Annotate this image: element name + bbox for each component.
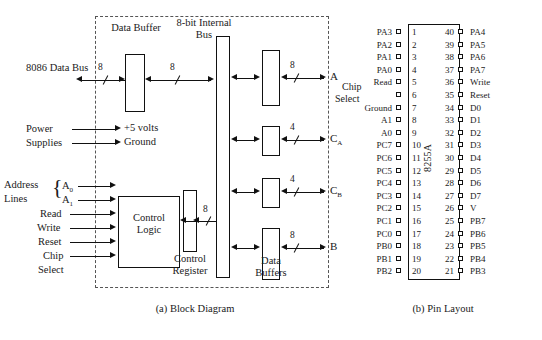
pin-name-right-32: D2 xyxy=(470,128,481,138)
supplies-text: Supplies xyxy=(26,137,62,148)
pin-pad-left-8 xyxy=(396,117,401,122)
pin-pad-left-6 xyxy=(396,92,401,97)
wire-bus-to-buffer-b xyxy=(236,248,256,249)
pin-number-18: 18 xyxy=(412,241,421,251)
pin-pad-right-30 xyxy=(458,155,463,160)
wire-internal-bus xyxy=(151,80,211,81)
bus-width-port-cb-text: 4 xyxy=(290,174,295,184)
pin-name-left-2: PA2 xyxy=(330,40,392,50)
pin-name-left-10: PC7 xyxy=(330,140,392,150)
pin-pad-right-33 xyxy=(458,117,463,122)
pin-pad-left-4 xyxy=(396,67,401,72)
arrowhead-a1 xyxy=(110,196,116,202)
pin-number-16: 16 xyxy=(412,216,421,226)
arrowhead-port-cb-right xyxy=(320,188,326,194)
pin-number-37: 37 xyxy=(426,65,454,75)
bus-width-port-ca-text: 4 xyxy=(290,122,295,132)
pin-pad-left-10 xyxy=(396,142,401,147)
block-internal-bus-label: 8-bit Internal Bus xyxy=(176,17,232,41)
pin-pad-left-5 xyxy=(396,79,401,84)
pin-name-left-5: Read xyxy=(330,77,392,87)
a1-text: A xyxy=(62,194,70,205)
pin-name-right-38: PA6 xyxy=(470,52,485,62)
data-buffers-text: Data Buffers xyxy=(255,255,286,278)
bus-width-external-text: 8 xyxy=(98,62,103,72)
pin-pad-right-34 xyxy=(458,105,463,110)
bus-width-internal-text: 8 xyxy=(170,62,175,72)
pin-pad-right-37 xyxy=(458,67,463,72)
pin-pad-right-31 xyxy=(458,142,463,147)
pin-number-23: 23 xyxy=(426,241,454,251)
arrowhead-port-b-left xyxy=(281,244,287,250)
pin-name-right-37: PA7 xyxy=(470,65,485,75)
control-logic-text: Control Logic xyxy=(133,212,165,235)
bus-width-creg-text: 8 xyxy=(203,204,208,214)
arrowhead-data-bus-right xyxy=(119,76,125,82)
arrowhead-bus-to-creg xyxy=(193,217,199,223)
pin-name-right-34: D0 xyxy=(470,103,481,113)
pin-name-right-28: D6 xyxy=(470,178,481,188)
pin-name-left-18: PB0 xyxy=(330,241,392,251)
pin-number-26: 26 xyxy=(426,203,454,213)
bus-width-external: 8 xyxy=(98,62,103,72)
wire-ground xyxy=(72,143,117,144)
wire-port-a xyxy=(286,78,324,79)
pin-name-right-33: D1 xyxy=(470,115,481,125)
wire-port-cb xyxy=(286,192,324,193)
pin-name-right-36: Write xyxy=(470,77,490,87)
pin-name-left-9: A0 xyxy=(330,128,392,138)
pin-pad-left-1 xyxy=(396,29,401,34)
pin-number-31: 31 xyxy=(426,140,454,150)
pin-pad-left-3 xyxy=(396,54,401,59)
arrowhead-port-ca-right xyxy=(320,136,326,142)
pin-number-38: 38 xyxy=(426,52,454,62)
arrowhead-bus-buffer-a-left xyxy=(231,74,237,80)
pin-number-34: 34 xyxy=(426,103,454,113)
pin-number-17: 17 xyxy=(412,229,421,239)
arrowhead-chip-select xyxy=(110,252,116,258)
pin-pad-right-23 xyxy=(458,243,463,248)
pin-name-right-40: PA4 xyxy=(470,27,485,37)
label-chip: Chip xyxy=(43,250,63,261)
arrowhead-plus5 xyxy=(115,125,121,131)
pin-number-9: 9 xyxy=(412,128,417,138)
label-plus5-volts: +5 volts xyxy=(124,122,158,133)
pin-number-14: 14 xyxy=(412,191,421,201)
pin-number-19: 19 xyxy=(412,254,421,264)
label-power: Power xyxy=(26,123,53,134)
caption-a-text: (a) Block Diagram xyxy=(156,303,235,314)
wire-read xyxy=(70,214,112,215)
label-select: Select xyxy=(38,264,64,275)
label-write: Write xyxy=(37,222,60,233)
pin-number-36: 36 xyxy=(426,77,454,87)
pin-name-right-21: PB3 xyxy=(470,266,486,276)
pin-pad-right-24 xyxy=(458,231,463,236)
pin-number-22: 22 xyxy=(426,254,454,264)
pin-pad-left-18 xyxy=(396,243,401,248)
block-port-buffer-ca xyxy=(262,126,280,156)
pin-name-right-23: PB5 xyxy=(470,241,486,251)
caption-block-diagram: (a) Block Diagram xyxy=(130,303,260,314)
pin-number-3: 3 xyxy=(412,52,417,62)
pin-pad-left-7 xyxy=(396,105,401,110)
wire-a1 xyxy=(78,200,112,201)
pin-number-7: 7 xyxy=(412,103,417,113)
block-data-buffers-label: Data Buffers xyxy=(245,255,297,279)
pin-name-right-31: D3 xyxy=(470,140,481,150)
pin-number-8: 8 xyxy=(412,115,417,125)
arrowhead-port-b-right xyxy=(320,244,326,250)
pin-number-1: 1 xyxy=(412,27,417,37)
pin-number-13: 13 xyxy=(412,178,421,188)
pin-number-15: 15 xyxy=(412,203,421,213)
a1-subscript: 1 xyxy=(70,200,74,208)
pin-pad-left-9 xyxy=(396,130,401,135)
caption-pin-layout: (b) Pin Layout xyxy=(378,303,508,314)
wire-bus-to-buffer-cb xyxy=(236,192,256,193)
label-8086-data-bus: 8086 Data Bus xyxy=(26,62,86,73)
caption-b-text: (b) Pin Layout xyxy=(412,303,473,314)
wire-a0 xyxy=(78,186,112,187)
pin-name-left-19: PB1 xyxy=(330,254,392,264)
block-port-buffer-a xyxy=(262,50,280,106)
pin-pad-right-22 xyxy=(458,256,463,261)
arrowhead-bus-buffer-ca-left xyxy=(231,136,237,142)
